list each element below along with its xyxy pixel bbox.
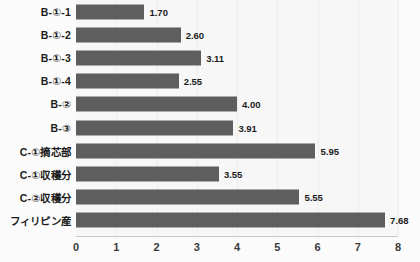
bar-container: 3.91 <box>76 120 257 135</box>
x-tick-label: 7 <box>355 241 361 253</box>
x-tick-label: 1 <box>113 241 119 253</box>
bar-value-label: 2.55 <box>184 76 203 87</box>
bar-container: 5.95 <box>76 143 339 158</box>
x-tick-label: 4 <box>234 241 240 253</box>
bar[interactable] <box>76 97 237 112</box>
bar-value-label: 3.11 <box>206 52 224 63</box>
bar-row: B-②4.00 <box>0 93 420 116</box>
bar[interactable] <box>76 190 299 205</box>
bar-container: 2.60 <box>76 27 204 42</box>
bar[interactable] <box>76 27 181 42</box>
bar-value-label: 4.00 <box>242 99 261 110</box>
x-tick-label: 0 <box>73 241 79 253</box>
category-label: B-①-2 <box>41 29 71 41</box>
bar-value-label: 1.70 <box>149 6 168 17</box>
bar[interactable] <box>76 120 233 135</box>
category-label: B-③ <box>50 122 71 134</box>
bar-row: B-③3.91 <box>0 116 420 139</box>
bar-value-label: 3.55 <box>224 168 243 179</box>
bar-value-label: 3.91 <box>238 122 257 133</box>
bar-row: フィリピン産7.68 <box>0 209 420 232</box>
category-label: B-①-3 <box>41 52 71 64</box>
category-label: B-①-1 <box>41 6 71 18</box>
bar[interactable] <box>76 74 179 89</box>
bar-container: 7.68 <box>76 213 409 228</box>
bar-value-label: 2.60 <box>186 29 205 40</box>
bar-container: 3.11 <box>76 50 224 65</box>
bar-row: B-①-11.70 <box>0 0 420 23</box>
x-tick-label: 5 <box>274 241 280 253</box>
bar-container: 3.55 <box>76 166 242 181</box>
category-label: フィリピン産 <box>10 213 71 228</box>
x-tick-label: 2 <box>153 241 159 253</box>
bar-row: C-①収穫分3.55 <box>0 162 420 185</box>
horizontal-bar-chart: B-①-11.70B-①-22.60B-①-33.11B-①-42.55B-②4… <box>0 0 420 262</box>
category-label: C-①摘芯部 <box>20 143 71 158</box>
category-label: C-②収穫分 <box>20 190 71 205</box>
x-tick-label: 8 <box>395 241 401 253</box>
x-tick-label: 3 <box>194 241 200 253</box>
bar-value-label: 5.95 <box>320 145 339 156</box>
bar-row: C-①摘芯部5.95 <box>0 139 420 162</box>
bar-container: 2.55 <box>76 74 202 89</box>
category-label: B-①-4 <box>41 75 71 87</box>
bar-row: C-②収穫分5.55 <box>0 186 420 209</box>
x-tick-label: 6 <box>314 241 320 253</box>
bar[interactable] <box>76 143 315 158</box>
bar-value-label: 7.68 <box>390 215 409 226</box>
bar[interactable] <box>76 50 201 65</box>
x-axis-ticks: 012345678 <box>0 237 420 262</box>
bar[interactable] <box>76 166 219 181</box>
category-label: B-② <box>50 98 71 110</box>
bar-container: 5.55 <box>76 190 323 205</box>
bar-container: 1.70 <box>76 4 168 19</box>
bar-value-label: 5.55 <box>304 192 323 203</box>
bar[interactable] <box>76 4 144 19</box>
category-label: C-①収穫分 <box>20 166 71 181</box>
bar-row: B-①-42.55 <box>0 70 420 93</box>
bar-container: 4.00 <box>76 97 261 112</box>
bar-row: B-①-33.11 <box>0 46 420 69</box>
bar-row: B-①-22.60 <box>0 23 420 46</box>
bar[interactable] <box>76 213 385 228</box>
